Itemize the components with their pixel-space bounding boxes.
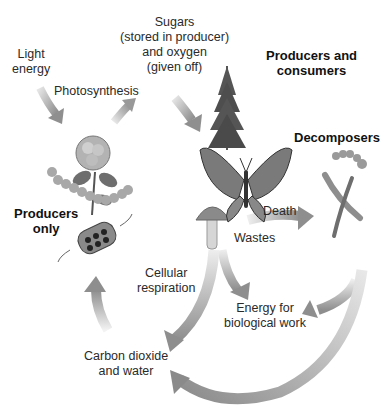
label-wastes: Wastes (234, 231, 275, 246)
pine-tree-icon (208, 66, 246, 150)
label-cellular-respiration: Cellular respiration (137, 266, 195, 296)
mushroom-icon (196, 207, 230, 249)
label-sugars-oxygen: Sugars (stored in producer) and oxygen (… (120, 15, 229, 75)
label-death: Death (263, 204, 296, 219)
worms-icon (325, 175, 360, 236)
label-producers-and-consumers: Producers and consumers (266, 48, 357, 78)
label-carbon-dioxide-and-water: Carbon dioxide and water (84, 349, 168, 379)
energy-cycle-diagram: Light energy Photosynthesis Sugars (stor… (0, 0, 389, 411)
label-light-energy: Light energy (12, 47, 50, 77)
label-decomposers: Decomposers (294, 130, 380, 145)
bacteria-chain-icon (332, 150, 367, 169)
label-producers-only: Producers only (14, 206, 78, 236)
label-energy-for-biological-work: Energy for biological work (224, 301, 306, 331)
rose-plant-icon (70, 136, 119, 215)
label-photosynthesis: Photosynthesis (54, 84, 139, 99)
